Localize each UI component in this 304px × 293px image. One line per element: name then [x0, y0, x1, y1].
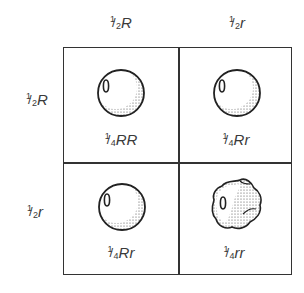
cell-label-Rr-bottom: 1/4Rr	[108, 245, 135, 260]
fraction: 1/4	[224, 245, 235, 260]
seed-illustrations	[0, 0, 304, 293]
fraction: 1/4	[223, 132, 234, 147]
cell-label-rr: 1/4rr	[224, 245, 245, 260]
round-seed-icon	[211, 67, 260, 116]
round-seed-icon	[96, 181, 145, 230]
cell-label-RR: 1/4RR	[105, 132, 138, 147]
wrinkled-seed-icon	[212, 179, 261, 228]
fraction: 1/4	[105, 132, 116, 147]
round-seed-icon	[95, 67, 144, 116]
cell-label-Rr-top: 1/4Rr	[223, 132, 250, 147]
fraction: 1/4	[108, 245, 119, 260]
